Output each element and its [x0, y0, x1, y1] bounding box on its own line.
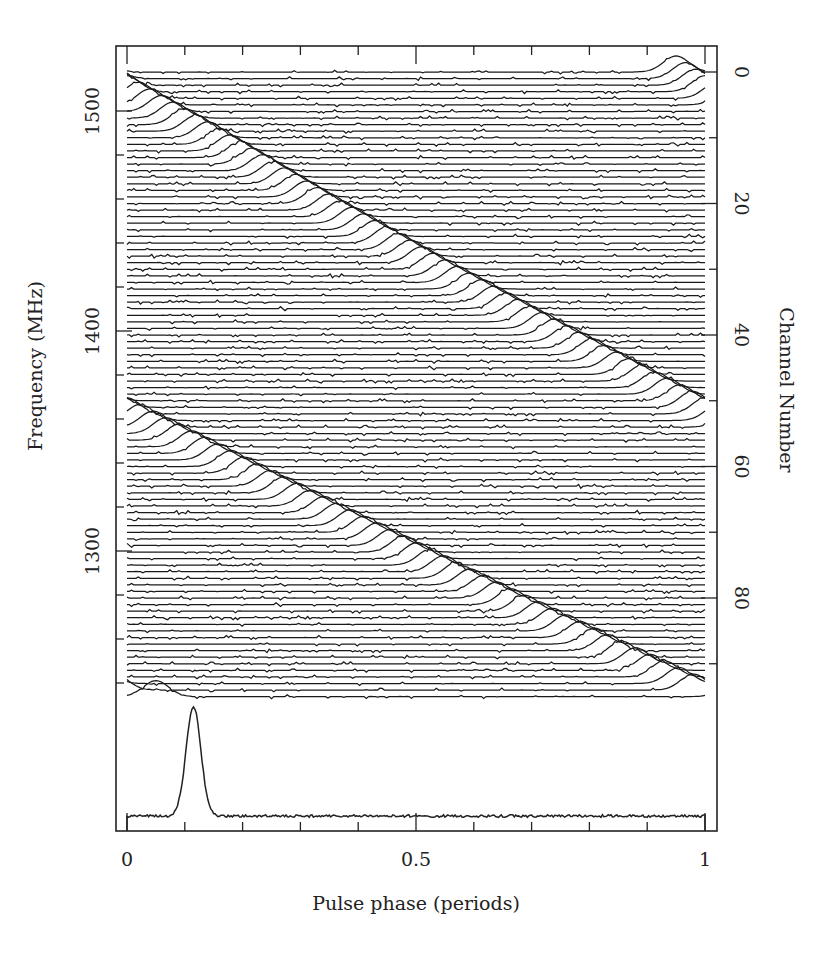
channel-traces	[127, 56, 705, 699]
channel-trace	[127, 547, 705, 567]
right-axis-tick-labels: 020406080	[731, 66, 753, 610]
left-axis-tick-labels: 150014001300	[81, 87, 103, 575]
channel-tick-label: 60	[731, 454, 753, 478]
channel-tick-label: 40	[731, 323, 753, 347]
channel-trace	[127, 640, 705, 659]
channel-tick-label: 80	[731, 586, 753, 610]
channel-trace	[127, 588, 705, 607]
right-axis-title: Channel Number	[776, 307, 798, 473]
channel-trace	[127, 476, 705, 495]
x-axis-title: Pulse phase (periods)	[312, 892, 520, 914]
channel-trace	[127, 391, 705, 410]
channel-trace	[127, 377, 705, 396]
freq-tick-label: 1400	[81, 307, 103, 355]
freq-tick-label: 1500	[81, 87, 103, 135]
channel-trace	[127, 423, 705, 442]
channel-trace	[127, 337, 705, 356]
channel-trace	[127, 364, 705, 384]
left-axis-title: Frequency (MHz)	[24, 281, 46, 451]
channel-tick-label: 20	[731, 191, 753, 215]
freq-tick-label: 1300	[81, 527, 103, 575]
channel-tick-label: 0	[731, 66, 753, 78]
x-tick-label: 1	[699, 848, 711, 870]
x-tick-label: 0.5	[401, 848, 431, 870]
integrated-pulse-profile	[127, 707, 705, 831]
x-tick-label: 0	[121, 848, 133, 870]
pulsar-waterfall-chart: 00.51 150014001300 020406080 Pulse phase…	[0, 0, 829, 955]
channel-trace	[127, 456, 705, 475]
x-axis-tick-labels: 00.51	[121, 848, 711, 870]
